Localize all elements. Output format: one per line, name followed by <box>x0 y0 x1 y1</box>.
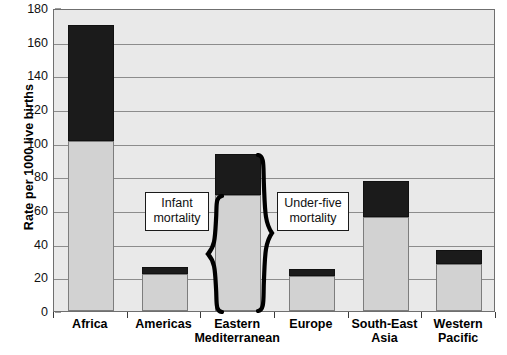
y-tick-label: 100 <box>14 137 48 151</box>
under-five-mortality-segment <box>68 25 114 141</box>
gridline <box>54 44 494 45</box>
y-tick-label: 160 <box>14 36 48 50</box>
gridline <box>54 111 494 112</box>
infant-mortality-callout: Infant mortality <box>145 192 209 231</box>
infant-mortality-segment <box>68 141 114 311</box>
under-five-mortality-segment <box>142 267 188 274</box>
y-tick-label: 0 <box>14 305 48 319</box>
y-tick-label: 180 <box>14 2 48 16</box>
bar-americas <box>142 267 188 311</box>
infant-mortality-segment <box>142 274 188 311</box>
y-tick-label: 80 <box>14 170 48 184</box>
infant-mortality-segment <box>363 217 409 311</box>
y-tick-label: 60 <box>14 204 48 218</box>
bar-western-pacific <box>436 250 482 311</box>
mortality-rate-bar-chart: Rate per 1000 live births 02040608010012… <box>0 0 507 355</box>
y-tick-label: 40 <box>14 238 48 252</box>
under-five-mortality-segment <box>436 250 482 263</box>
bar-south-east-asia <box>363 181 409 311</box>
under-five-mortality-brace-icon <box>253 153 275 313</box>
infant-mortality-segment <box>436 264 482 311</box>
y-tick-label: 140 <box>14 69 48 83</box>
gridline <box>54 77 494 78</box>
bar-europe <box>289 269 335 311</box>
y-tick-label: 20 <box>14 271 48 285</box>
y-axis-ticks: 020406080100120140160180 <box>8 0 48 355</box>
infant-mortality-brace-icon <box>205 194 227 314</box>
x-axis-label-western-pacific: Western Pacific <box>413 318 503 345</box>
under-five-mortality-segment <box>363 181 409 216</box>
under-five-mortality-segment <box>289 269 335 276</box>
infant-mortality-segment <box>289 276 335 311</box>
gridline <box>54 145 494 146</box>
bar-africa <box>68 25 114 311</box>
under-five-mortality-callout: Under-five mortality <box>277 192 349 231</box>
y-tick-label: 120 <box>14 103 48 117</box>
